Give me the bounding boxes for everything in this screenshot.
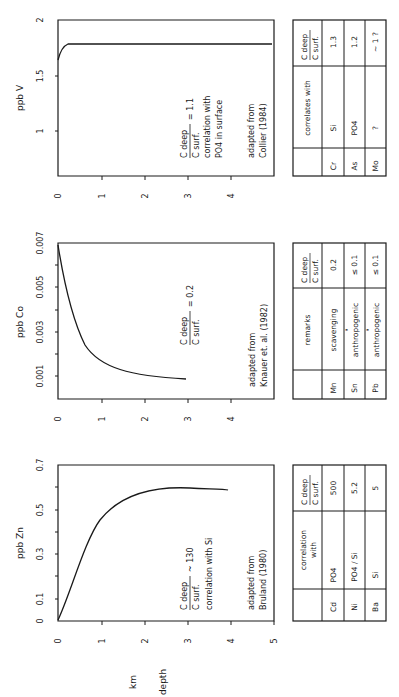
ytick-zn-4: 0 — [36, 618, 45, 623]
xtick-zn-2: 2 — [141, 638, 150, 643]
note-v-1: correlation with — [203, 96, 212, 158]
source-zn-2: Bruland (1980) — [259, 550, 268, 610]
source-zn-1: adapted from — [247, 556, 256, 610]
table-zn-ba-col2: Si — [371, 572, 380, 579]
table-zn: correlation with C deep C surf. Cd PO4 5… — [293, 465, 386, 621]
xtick-v-3: 3 — [184, 193, 193, 198]
table-co-sn: Sn — [350, 383, 359, 393]
depth-unit-label: km — [128, 675, 138, 689]
table-zn-cd-ratio: 500 — [329, 481, 338, 496]
table-co-header-num: C deep — [300, 256, 309, 283]
table-co-sn-col2: anthropogenic — [351, 303, 360, 357]
table-zn-ni-col2: PO4 / Si — [350, 552, 359, 581]
ytick-co-3: 0.001 — [36, 365, 45, 388]
table-zn-header-col2a: correlation — [299, 530, 308, 570]
source-co-2: Knauer et. al. (1982) — [260, 304, 269, 387]
source-v-1: adapted from — [247, 104, 256, 158]
depth-axis-label: depth — [158, 669, 168, 695]
note-v-2: PO4 in surface — [215, 100, 224, 158]
table-v-mo-ratio: ~ 1 ? — [371, 32, 380, 52]
table-zn-header-num: C deep — [300, 478, 309, 505]
table-co-pb-col2: anthropogenic — [372, 303, 381, 357]
table-zn-ba-ratio: 5 — [371, 485, 380, 490]
xtick-co-1: 1 — [98, 416, 107, 421]
table-co-pb: Pb — [371, 383, 380, 393]
table-v-header-den: C surf. — [311, 36, 320, 60]
ytick-co-0: 0.007 — [36, 232, 45, 255]
panel-v: ppb V 2 1.5 1 0 1 2 3 4 C deep C surf. =… — [15, 17, 274, 198]
table-co-mn-ratio: 0.2 — [329, 259, 338, 271]
table-co-mn: Mn — [329, 382, 338, 393]
xtick-zn-5: 5 — [270, 638, 279, 643]
xtick-v-4: 4 — [227, 193, 236, 198]
ratio-v-num: C deep — [180, 130, 189, 158]
ratio-zn-value: ~ 130 — [186, 547, 195, 572]
xtick-v-0: 0 — [54, 193, 63, 198]
table-co: remarks C deep C surf. Mn scavenging 0.2… — [293, 243, 386, 399]
xtick-zn-4: 4 — [227, 638, 236, 643]
table-zn-header-den: C surf. — [311, 481, 320, 505]
ytick-zn-1: 0.5 — [36, 504, 45, 517]
ytick-zn-3: 0.1 — [36, 593, 45, 606]
table-co-pb-ratio: ≤ 0.1 — [371, 254, 380, 275]
source-co-1: adapted from — [248, 333, 257, 387]
xtick-zn-0: 0 — [54, 638, 63, 643]
table-v-mo-col2: ? — [371, 126, 380, 130]
ratio-co-value: = 0.2 — [186, 285, 195, 307]
ylabel-co: ppb Co — [15, 306, 25, 338]
note-zn-1: correlation with Si — [205, 538, 214, 610]
table-zn-ni-ratio: 5.2 — [350, 482, 359, 494]
xtick-co-3: 3 — [184, 416, 193, 421]
table-v: correlates with C deep C surf. Cr Si 1.3… — [293, 20, 386, 176]
panel-zn: ppb Zn 0.7 0.5 0.3 0.1 0 0 1 2 3 4 5 km … — [15, 459, 279, 695]
ratio-co: C deep C surf. = 0.2 — [180, 285, 201, 345]
ratio-v: C deep C surf. = 1.1 — [180, 98, 201, 158]
ytick-zn-0: 0.7 — [36, 459, 45, 472]
xtick-co-0: 0 — [54, 416, 63, 421]
table-v-cr-ratio: 1.3 — [329, 36, 338, 48]
panel-co: ppb Co 0.007 0.005 0.003 0.001 0 1 2 3 4… — [15, 232, 274, 422]
table-v-mo: Mo — [371, 160, 380, 171]
ytick-v-2: 1 — [36, 128, 45, 133]
plot-frame-co — [58, 243, 274, 399]
ytick-zn-2: 0.3 — [36, 548, 45, 561]
ytick-v-0: 2 — [36, 17, 45, 22]
ytick-co-1: 0.005 — [36, 276, 45, 299]
table-zn-ba: Ba — [371, 602, 380, 612]
xtick-co-4: 4 — [227, 416, 236, 421]
table-co-header-col2: remarks — [303, 315, 312, 346]
ratio-zn: C deep C surf. ~ 130 — [180, 547, 201, 610]
curve-zn — [58, 488, 228, 620]
table-v-header-num: C deep — [300, 33, 309, 60]
ylabel-v: ppb V — [15, 84, 25, 111]
ratio-co-den: C surf. — [192, 320, 201, 345]
ratio-co-num: C deep — [180, 317, 189, 345]
xtick-zn-3: 3 — [184, 638, 193, 643]
table-zn-cd-col2: PO4 — [329, 567, 338, 582]
ratio-zn-num: C deep — [180, 582, 189, 610]
figure-canvas: ppb V 2 1.5 1 0 1 2 3 4 C deep C surf. =… — [0, 0, 399, 697]
table-v-as-col2: PO4 — [350, 120, 359, 135]
table-zn-cd: Cd — [329, 602, 338, 612]
ylabel-zn: ppb Zn — [15, 527, 25, 559]
curve-v — [58, 44, 272, 60]
curve-co — [58, 245, 186, 379]
table-v-as: As — [350, 161, 359, 170]
table-v-header-col2: correlates with — [303, 80, 312, 136]
source-v-2: Collier (1984) — [259, 103, 268, 158]
table-co-mn-col2: scavenging — [329, 308, 338, 351]
table-zn-header-col2: with — [309, 542, 318, 558]
table-zn-ni: Ni — [350, 603, 359, 611]
table-v-cr: Cr — [329, 161, 338, 170]
table-v-as-ratio: 1.2 — [350, 36, 359, 48]
xtick-co-2: 2 — [141, 416, 150, 421]
table-co-header-den: C surf. — [311, 259, 320, 283]
xtick-v-1: 1 — [98, 193, 107, 198]
ratio-v-den: C surf. — [192, 133, 201, 158]
xtick-v-2: 2 — [141, 193, 150, 198]
table-co-sn-ratio: ≤ 0.1 — [350, 254, 359, 275]
ytick-co-2: 0.003 — [36, 321, 45, 344]
ytick-v-1: 1.5 — [36, 70, 45, 83]
xtick-zn-1: 1 — [98, 638, 107, 643]
ratio-zn-den: C surf. — [192, 585, 201, 610]
